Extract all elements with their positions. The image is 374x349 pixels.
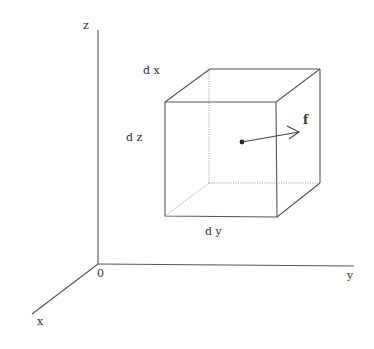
dx-label: d x bbox=[143, 65, 160, 76]
y-axis-line bbox=[98, 264, 354, 266]
coordinate-axes bbox=[32, 30, 354, 314]
dy-label: d y bbox=[205, 226, 222, 237]
force-vector bbox=[240, 126, 299, 144]
cube-front-face bbox=[165, 102, 277, 217]
force-arrow-shaft bbox=[242, 132, 299, 142]
volume-element-diagram bbox=[0, 0, 374, 349]
origin-label: 0 bbox=[97, 268, 104, 279]
z-axis-label: z bbox=[83, 20, 89, 31]
x-axis-line bbox=[32, 264, 98, 314]
force-label: f bbox=[303, 114, 308, 126]
x-axis-label: x bbox=[37, 316, 43, 327]
dz-label: d z bbox=[126, 132, 142, 143]
y-axis-label: y bbox=[347, 270, 353, 281]
